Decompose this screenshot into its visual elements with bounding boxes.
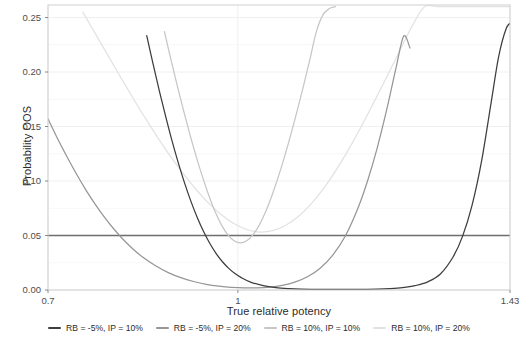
legend-item[interactable]: RB = -5%, IP = 20% (156, 323, 251, 333)
x-axis-title: True relative potency (48, 305, 510, 317)
legend-item[interactable]: RB = 10%, IP = 20% (373, 323, 470, 333)
x-tick-label: 0.7 (28, 295, 68, 306)
x-tick-label: 1.43 (490, 295, 524, 306)
x-tick-label: 1 (218, 295, 258, 306)
legend-label: RB = 10%, IP = 20% (391, 323, 470, 333)
legend-label: RB = -5%, IP = 10% (66, 323, 143, 333)
y-tick-label: 0.10 (7, 175, 41, 186)
legend-line-swatch (373, 327, 386, 329)
y-tick-label: 0.15 (7, 121, 41, 132)
y-tick-label: 0.05 (7, 230, 41, 241)
y-tick-label: 0.20 (7, 66, 41, 77)
legend-label: RB = 10%, IP = 10% (282, 323, 361, 333)
y-axis-title: Probability OOS (21, 71, 33, 221)
legend-item[interactable]: RB = -5%, IP = 10% (48, 323, 143, 333)
legend-label: RB = -5%, IP = 20% (174, 323, 251, 333)
legend-line-swatch (264, 327, 277, 329)
y-tick-label: 0.25 (7, 12, 41, 23)
legend-item[interactable]: RB = 10%, IP = 10% (264, 323, 361, 333)
legend-line-swatch (156, 327, 169, 329)
legend-line-swatch (48, 327, 61, 329)
y-tick-label: 0.00 (7, 284, 41, 295)
plot-panel-background (48, 5, 510, 290)
chart-legend: RB = -5%, IP = 10%RB = -5%, IP = 20%RB =… (0, 323, 518, 333)
